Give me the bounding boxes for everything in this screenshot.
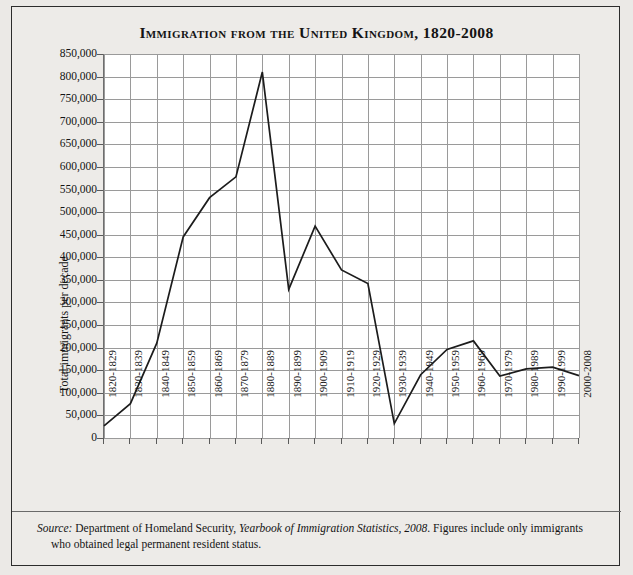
y-axis-tick-label: 250,000 xyxy=(27,319,97,331)
y-axis-tick-labels: 850,000800,000750,000700,000650,000600,0… xyxy=(21,54,97,438)
x-axis-tick-mark xyxy=(472,438,473,444)
x-axis-tick-label: 1820-1829 xyxy=(107,350,118,450)
x-axis-tick-mark xyxy=(446,438,447,444)
source-text-1: Department of Homeland Security, xyxy=(72,522,239,534)
x-axis-tick-label: 1870-1879 xyxy=(239,350,250,450)
x-axis-tick-mark xyxy=(209,438,210,444)
gridline-vertical xyxy=(579,54,580,438)
x-axis-tick-label: 1880-1889 xyxy=(265,350,276,450)
source-label: Source: xyxy=(37,522,72,534)
y-axis-tick-label: 300,000 xyxy=(27,296,97,308)
x-axis-tick-mark xyxy=(156,438,157,444)
source-note: Source: Department of Homeland Security,… xyxy=(37,520,599,553)
y-axis-tick-label: 750,000 xyxy=(27,93,97,105)
y-axis-tick-label: 50,000 xyxy=(27,409,97,421)
x-axis-tick-label: 1890-1899 xyxy=(292,350,303,450)
chart-frame: Immigration from the United Kingdom, 182… xyxy=(11,6,620,566)
x-axis-tick-mark xyxy=(367,438,368,444)
x-axis-tick-label: 1970-1979 xyxy=(503,350,514,450)
x-axis-tick-mark xyxy=(129,438,130,444)
x-axis-tick-label: 1910-1919 xyxy=(345,350,356,450)
x-axis-tick-mark xyxy=(235,438,236,444)
x-axis-tick-mark xyxy=(393,438,394,444)
y-axis-tick-label: 450,000 xyxy=(27,229,97,241)
x-axis-tick-label: 1930-1939 xyxy=(397,350,408,450)
x-axis-tick-mark xyxy=(499,438,500,444)
y-axis-tick-label: 0 xyxy=(27,432,97,444)
x-axis-tick-label: 1860-1869 xyxy=(213,350,224,450)
y-axis-tick-label: 850,000 xyxy=(27,48,97,60)
x-axis-tick-label: 1950-1959 xyxy=(450,350,461,450)
x-axis-tick-mark xyxy=(420,438,421,444)
figure-background: Immigration from the United Kingdom, 182… xyxy=(0,0,633,575)
x-axis-tick-mark xyxy=(552,438,553,444)
x-axis-tick-mark xyxy=(182,438,183,444)
x-axis-tick-label: 1980-1989 xyxy=(529,350,540,450)
y-axis-tick-label: 800,000 xyxy=(27,71,97,83)
x-axis-tick-mark xyxy=(288,438,289,444)
x-axis-tick-mark xyxy=(261,438,262,444)
y-axis-tick-label: 650,000 xyxy=(27,138,97,150)
x-axis-tick-label: 1960-1969 xyxy=(476,350,487,450)
x-axis-tick-label: 2000-2008 xyxy=(582,350,593,450)
x-axis-tick-mark xyxy=(525,438,526,444)
y-axis-tick-label: 700,000 xyxy=(27,116,97,128)
x-axis-tick-label: 1920-1929 xyxy=(371,350,382,450)
y-axis-tick-label: 400,000 xyxy=(27,251,97,263)
x-axis-tick-label: 1840-1849 xyxy=(160,350,171,450)
source-divider xyxy=(12,511,621,512)
x-axis-tick-label: 1830-1839 xyxy=(133,350,144,450)
x-axis-tick-mark xyxy=(314,438,315,444)
y-axis-tick-label: 600,000 xyxy=(27,161,97,173)
x-axis-tick-mark xyxy=(578,438,579,444)
x-axis-tick-mark xyxy=(341,438,342,444)
x-axis-tick-label: 1990-1999 xyxy=(556,350,567,450)
chart-title: Immigration from the United Kingdom, 182… xyxy=(12,24,621,42)
x-axis-tick-label: 1850-1859 xyxy=(186,350,197,450)
y-axis-tick-label: 500,000 xyxy=(27,206,97,218)
x-axis-tick-mark xyxy=(103,438,104,444)
x-axis-tick-label: 1940-1949 xyxy=(424,350,435,450)
y-axis-tick-label: 100,000 xyxy=(27,387,97,399)
source-publication: Yearbook of Immigration Statistics, 2008 xyxy=(239,522,427,534)
y-axis-tick-label: 200,000 xyxy=(27,342,97,354)
y-axis-tick-label: 350,000 xyxy=(27,274,97,286)
x-axis-tick-label: 1900-1909 xyxy=(318,350,329,450)
y-axis-tick-label: 550,000 xyxy=(27,184,97,196)
y-axis-tick-label: 150,000 xyxy=(27,364,97,376)
